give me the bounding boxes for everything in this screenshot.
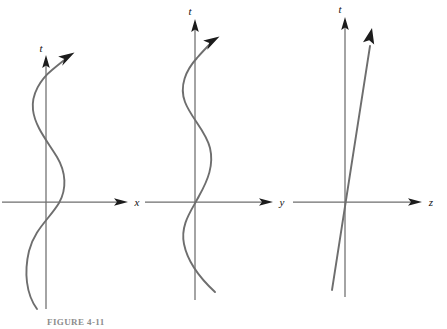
z-axis-label-panel-z: z bbox=[428, 196, 434, 208]
worldline-curve-panel-y bbox=[183, 42, 215, 292]
t-axis-label-panel-z: t bbox=[338, 3, 342, 15]
t-axis-label-panel-y: t bbox=[188, 5, 192, 17]
worldline-curve-panel-x bbox=[26, 58, 67, 309]
figure-container: t x t y bbox=[0, 0, 447, 329]
worldline-arrowhead-panel-z bbox=[363, 28, 374, 45]
y-t-panel: t y bbox=[145, 5, 285, 300]
t-axis-label-panel-x: t bbox=[39, 42, 43, 54]
x-t-panel: t x bbox=[2, 42, 140, 309]
worldline-curve-panel-z bbox=[332, 46, 370, 290]
z-t-panel: t z bbox=[293, 3, 434, 297]
worldline-projection-figure: t x t y bbox=[0, 0, 447, 329]
x-axis-label-panel-x: x bbox=[134, 196, 140, 208]
y-axis-label-panel-y: y bbox=[279, 196, 285, 208]
figure-caption: FIGURE 4-11 bbox=[47, 317, 105, 327]
